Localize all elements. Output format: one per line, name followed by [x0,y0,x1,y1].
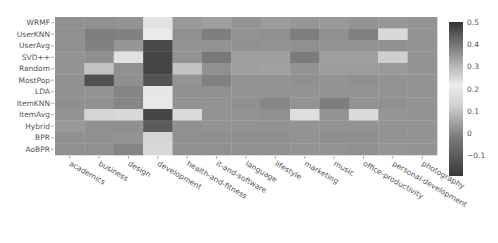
heatmap-cell [349,29,379,41]
heatmap-cell [114,132,144,144]
heatmap-cell [173,109,203,121]
heatmap-cell [408,75,438,87]
heatmap-cell [55,121,85,133]
heatmap-cell [261,86,291,98]
heatmap-cell [261,40,291,52]
heatmap-cell [143,29,173,41]
heatmap-cell [319,109,349,121]
heatmap-cell [55,75,85,87]
heatmap-cell [261,144,291,156]
heatmap-cell [84,40,114,52]
heatmap-cell [231,98,261,110]
heatmap-cell [290,52,320,64]
heatmap-cell [114,63,144,75]
y-axis-labels: WRMFUserKNNUserAvgSVD++RandomMostPopLDAI… [17,18,54,154]
heatmap-cell [408,121,438,133]
y-tick-label: Hybrid [25,122,50,131]
heatmap-cell [173,40,203,52]
heatmap-cell [84,52,114,64]
heatmap-cell [408,98,438,110]
y-tick-label: LDA [35,87,51,96]
heatmap-cell [84,86,114,98]
heatmap-cell [114,17,144,29]
heatmap-cell [84,63,114,75]
heatmap-cell [261,29,291,41]
y-tick-label: AoBPR [26,145,50,154]
heatmap-cell [290,29,320,41]
heatmap-cell [378,121,408,133]
colorbar-tick-label: 0.1 [467,107,479,116]
colorbar-tick-label: 0.4 [467,40,479,49]
heatmap-cell [349,75,379,87]
heatmap-cell [378,63,408,75]
heatmap-cell [202,75,232,87]
heatmap-cell [319,52,349,64]
heatmap-cell [261,121,291,133]
heatmap-cell [173,75,203,87]
heatmap-cell [319,17,349,29]
heatmap-cell [55,29,85,41]
heatmap-cell [84,109,114,121]
heatmap-cell [84,29,114,41]
heatmap-cell [290,75,320,87]
heatmap-cell [143,17,173,29]
heatmap-cell [319,86,349,98]
heatmap-cell [173,121,203,133]
colorbar-tick-label: −0.1 [467,151,485,160]
heatmap-cell [231,17,261,29]
heatmap-cell [173,17,203,29]
heatmap-cell [202,52,232,64]
heatmap-cell [349,109,379,121]
heatmap-cell [231,63,261,75]
heatmap-cell [202,63,232,75]
heatmap-cell [143,40,173,52]
heatmap-cell [202,132,232,144]
heatmap-cell [261,63,291,75]
heatmap-cell [143,63,173,75]
heatmap-cell [319,40,349,52]
heatmap-cell [55,63,85,75]
heatmap-cell [290,17,320,29]
heatmap-cell [202,86,232,98]
heatmap-cell [173,98,203,110]
heatmap-cell [290,40,320,52]
heatmap-cell [349,144,379,156]
heatmap-cell [143,121,173,133]
heatmap-cell [319,132,349,144]
heatmap-cell [143,86,173,98]
heatmap-cell [173,144,203,156]
heatmap-cell [114,144,144,156]
heatmap-cell [84,132,114,144]
heatmap-cell [319,63,349,75]
heatmap-cell [378,144,408,156]
heatmap-cell [261,52,291,64]
y-tick-label: BPR [35,133,50,142]
heatmap-cell [143,132,173,144]
heatmap-cell [261,75,291,87]
heatmap-cell [231,52,261,64]
heatmap-cell [55,40,85,52]
y-tick-label: Random [19,64,50,73]
heatmap-cell [231,29,261,41]
y-tick-label: ItemKNN [17,99,50,108]
heatmap-cell [173,132,203,144]
y-tick-label: WRMF [27,18,50,27]
colorbar-tick-label: 0.2 [467,85,479,94]
heatmap-cell [231,109,261,121]
heatmap-cell [349,63,379,75]
heatmap-cell [202,98,232,110]
heatmap-cell [378,40,408,52]
y-tick-label: UserAvg [19,41,50,50]
heatmap-cell [349,86,379,98]
heatmap-cell [143,52,173,64]
heatmap-cell [378,109,408,121]
heatmap-cell [319,29,349,41]
heatmap-cell [231,40,261,52]
heatmap-cell [84,121,114,133]
colorbar: 0.50.40.30.20.10−0.1 [449,18,485,176]
heatmap-cell [114,40,144,52]
heatmap-cell [408,17,438,29]
heatmap-cell [55,86,85,98]
colorbar-tick-labels: 0.50.40.30.20.10−0.1 [467,18,485,161]
heatmap-cell [55,52,85,64]
